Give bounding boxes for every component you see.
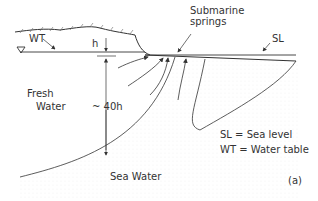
sl-label: SL xyxy=(272,33,284,44)
wt-label: WT xyxy=(29,33,45,44)
submarine-label: Submarine xyxy=(190,5,244,16)
legend-sl: SL = Sea level xyxy=(220,129,292,140)
fresh-label: Fresh xyxy=(27,88,54,99)
submarine-pointer-arrow xyxy=(178,34,191,52)
depth-label: ~ 40h xyxy=(92,101,123,112)
sea-water-label: Sea Water xyxy=(110,171,161,182)
h-label: h xyxy=(92,38,98,49)
water-label: Water xyxy=(36,101,66,112)
springs-label: springs xyxy=(190,16,226,27)
legend-wt: WT = Water table xyxy=(220,144,309,155)
panel-label: (a) xyxy=(288,175,302,186)
sl-pointer-arrow xyxy=(263,43,270,51)
